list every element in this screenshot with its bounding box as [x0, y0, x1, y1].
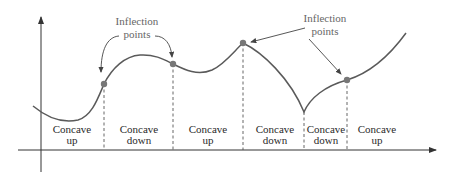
annotation-label-2-line1: Inflection	[304, 12, 347, 24]
annotation-label-2-line2: points	[312, 25, 339, 37]
region-4-line2: down	[263, 134, 288, 146]
region-5-line2: down	[314, 134, 339, 146]
region-6-line2: up	[372, 134, 384, 146]
annotation-label-1-line2: points	[124, 28, 151, 40]
annotation-label-1-line1: Inflection	[116, 15, 159, 27]
region-1-line2: up	[67, 134, 79, 146]
inflection-points	[101, 40, 350, 87]
region-3-line2: up	[203, 134, 215, 146]
concavity-diagram: Inflection points Inflection points Conc…	[0, 0, 455, 178]
region-2-line2: down	[127, 134, 152, 146]
function-curve	[33, 33, 406, 121]
